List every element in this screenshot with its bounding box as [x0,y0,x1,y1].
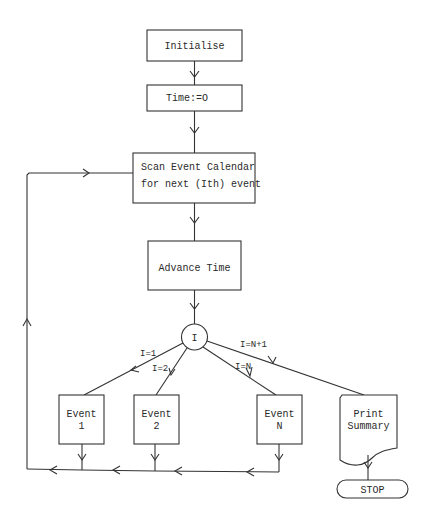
advance-time-node: Advance Time [148,241,241,290]
time-init-node: Time:=O [147,85,242,111]
stop-node: STOP [337,480,408,498]
print-label-line2: Summary [347,421,389,432]
edge-label-i1: I=1 [140,349,156,359]
edge-time-to-scan [190,111,199,153]
event2-label-line1: Event [141,409,171,420]
event2-label-line2: 2 [153,421,159,432]
initialise-label: Initialise [164,41,224,52]
eventN-node: Event N [257,395,302,444]
scan-calendar-node: Scan Event Calendar for next (Ith) event [133,153,261,203]
event2-node: Event 2 [134,395,179,444]
advance-time-label: Advance Time [158,263,230,274]
edge-label-i2: I=2 [152,364,168,374]
print-label-line1: Print [353,409,383,420]
initialise-node: Initialise [147,30,242,61]
time-init-label: Time:=O [166,93,208,104]
edge-decision-to-eventN: I=N [203,347,276,395]
stop-label: STOP [360,485,384,496]
scan-label-line2: for next (Ith) event [141,179,261,190]
event1-node: Event 1 [59,395,104,444]
edge-decision-to-print: I=N+1 [207,340,364,395]
edge-decision-to-event2: I=2 [152,348,187,395]
flowchart-diagram: Initialise Time:=O Scan Event Calendar f… [0,0,428,529]
return-bus [27,466,279,476]
edge-label-in: I=N [235,362,251,372]
decision-label: I [191,333,197,344]
scan-label-line1: Scan Event Calendar [141,162,255,173]
edge-advance-to-decision [190,290,199,324]
event1-label-line1: Event [66,409,96,420]
print-summary-node: Print Summary [340,395,397,465]
eventN-label-line1: Event [264,409,294,420]
eventN-label-line2: N [276,421,282,432]
decision-node: I [182,324,208,350]
edge-scan-to-advance [190,203,199,241]
event1-label-line2: 1 [78,421,84,432]
edge-label-in1: I=N+1 [240,340,267,350]
edge-initialise-to-time [190,61,199,85]
